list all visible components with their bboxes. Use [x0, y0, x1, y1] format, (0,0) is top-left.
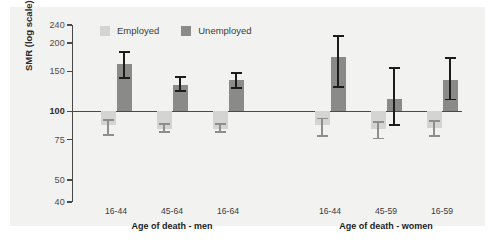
- y-tick-150: [67, 71, 72, 72]
- y-axis-label: SMR (log scale): [23, 57, 34, 71]
- cat-3-unemployed-error-cap-lower: [333, 86, 344, 88]
- cat-3-employed-error-cap-lower: [317, 135, 328, 137]
- cat-4-unemployed-error-cap-lower: [389, 124, 400, 126]
- y-axis-line: [72, 25, 73, 202]
- cat-5-unemployed-error-bar: [449, 58, 451, 100]
- cat-2-unemployed-error-bar: [235, 73, 237, 88]
- y-tick-240: [67, 24, 72, 25]
- cat-2-employed-error-cap-upper: [215, 123, 226, 125]
- cat-1-employed-error-cap-lower: [159, 131, 170, 133]
- x-tick-label-1: 45-64: [161, 206, 183, 216]
- x-group-label-1: Age of death - women: [339, 221, 433, 231]
- cat-3-employed-error-bar: [321, 119, 323, 136]
- y-tick-label-50: 50: [55, 175, 65, 185]
- cat-0-unemployed-error-bar: [123, 52, 125, 78]
- cat-3-employed-error-cap-upper: [317, 118, 328, 120]
- cat-5-employed-error-cap-lower: [429, 135, 440, 137]
- figure-panel: SMR (log scale) Employed Unemployed 4050…: [10, 7, 485, 226]
- cat-2-unemployed-error-cap-lower: [231, 87, 242, 89]
- cat-2-employed-error-cap-lower: [215, 131, 226, 133]
- cat-0-unemployed-error-cap-upper: [119, 51, 130, 53]
- cat-1-employed-error-cap-upper: [159, 123, 170, 125]
- y-tick-label-40: 40: [55, 197, 65, 207]
- x-tick-label-0: 16-44: [105, 206, 127, 216]
- plot-area: 405075100150200240 16-4445-6416-6416-444…: [72, 25, 462, 202]
- y-tick-label-200: 200: [49, 38, 65, 48]
- cat-5-unemployed-error-cap-upper: [445, 57, 456, 59]
- cat-1-unemployed-error-cap-lower: [175, 90, 186, 92]
- x-tick-label-3: 16-44: [319, 206, 341, 216]
- cat-5-employed-error-cap-upper: [429, 120, 440, 122]
- cat-4-unemployed-error-cap-upper: [389, 67, 400, 69]
- cat-1-unemployed-error-bar: [179, 77, 181, 91]
- x-tick-label-4: 45-59: [375, 206, 397, 216]
- cat-1-unemployed-error-cap-upper: [175, 76, 186, 78]
- y-tick-label-240: 240: [49, 20, 65, 30]
- y-tick-label-150: 150: [49, 66, 65, 76]
- cat-5-unemployed-error-cap-lower: [445, 99, 456, 101]
- cat-0-employed-error-cap-upper: [103, 119, 114, 121]
- y-tick-200: [67, 42, 72, 43]
- cat-0-employed-error-bar: [107, 120, 109, 135]
- cat-2-unemployed-error-cap-upper: [231, 72, 242, 74]
- y-tick-label-100: 100: [49, 106, 65, 116]
- x-tick-label-5: 16-59: [431, 206, 453, 216]
- x-tick-label-2: 16-64: [217, 206, 239, 216]
- y-tick-40: [67, 201, 72, 202]
- cat-0-employed-error-cap-lower: [103, 134, 114, 136]
- cat-3-unemployed-error-cap-upper: [333, 35, 344, 37]
- cat-4-unemployed-error-bar: [393, 68, 395, 125]
- cat-4-employed-error-bar: [377, 122, 379, 139]
- cat-4-employed-error-cap-lower: [373, 138, 384, 140]
- cat-0-unemployed-error-cap-lower: [119, 77, 130, 79]
- y-tick-75: [67, 139, 72, 140]
- cat-4-employed-error-cap-upper: [373, 121, 384, 123]
- cat-3-unemployed-error-bar: [337, 36, 339, 87]
- y-tick-label-75: 75: [55, 135, 65, 145]
- x-group-label-0: Age of death - men: [131, 221, 212, 231]
- y-tick-50: [67, 179, 72, 180]
- cat-5-employed-error-bar: [433, 121, 435, 136]
